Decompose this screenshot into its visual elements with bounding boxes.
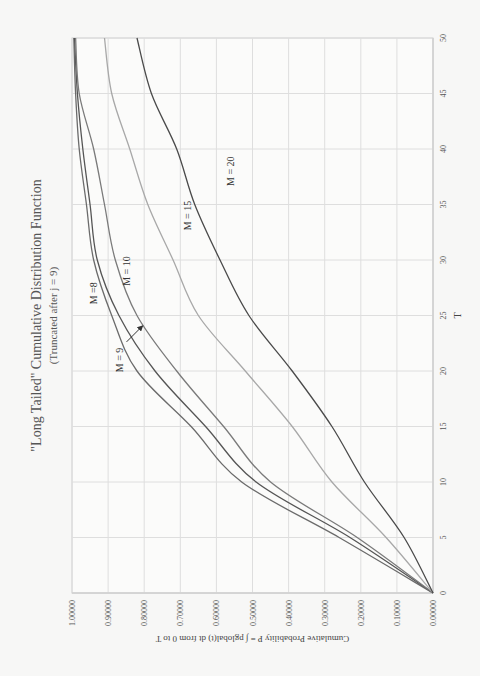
prob-tick-label: 0.10000 xyxy=(393,600,402,626)
prob-tick-label: 0.40000 xyxy=(285,600,294,626)
curve-label: M = 9 xyxy=(114,348,125,373)
t-tick-label: 10 xyxy=(439,478,448,486)
t-tick-label: 20 xyxy=(439,367,448,375)
t-tick-label: 15 xyxy=(439,423,448,431)
curve-label: M = 20 xyxy=(225,156,236,186)
t-axis-title: T xyxy=(452,312,463,318)
prob-axis-title: Cumulative Probability P = ∫ pglobal(t) … xyxy=(155,633,349,644)
prob-tick-label: 0.90000 xyxy=(104,600,113,626)
t-tick-label: 35 xyxy=(439,201,448,209)
prob-tick-label: 0.60000 xyxy=(212,600,221,626)
prob-tick-label: 0.20000 xyxy=(357,600,366,626)
prob-tick-label: 0.00000 xyxy=(429,600,438,626)
chart-subtitle: (Truncated after j = 9) xyxy=(47,266,60,364)
t-tick-label: 40 xyxy=(439,145,448,153)
t-tick-label: 0 xyxy=(439,591,448,595)
curve-label: M = 15 xyxy=(182,201,193,231)
t-tick-label: 45 xyxy=(439,90,448,98)
chart-figure: "Long Tailed" Cumulative Distribution Fu… xyxy=(0,0,480,676)
t-tick-label: 25 xyxy=(439,312,448,320)
curve-label: M = 10 xyxy=(121,256,132,286)
t-tick-label: 50 xyxy=(439,34,448,42)
prob-tick-label: 1.00000 xyxy=(68,600,77,626)
prob-tick-label: 0.30000 xyxy=(321,600,330,626)
t-tick-label: 5 xyxy=(439,536,448,540)
prob-tick-label: 0.80000 xyxy=(140,600,149,626)
curve-label: M =8 xyxy=(88,282,99,304)
chart-svg: 051015202530354045500.000000.100000.2000… xyxy=(0,0,480,676)
t-tick-label: 30 xyxy=(439,256,448,264)
prob-tick-label: 0.70000 xyxy=(176,600,185,626)
chart-title: "Long Tailed" Cumulative Distribution Fu… xyxy=(29,179,44,451)
prob-tick-label: 0.50000 xyxy=(249,600,258,626)
